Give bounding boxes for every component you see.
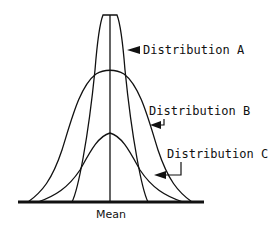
label-distribution-b: Distribution B: [149, 104, 250, 118]
pointer-c-icon: [154, 171, 166, 179]
label-distribution-a: Distribution A: [143, 43, 245, 57]
label-mean: Mean: [96, 208, 126, 221]
label-distribution-c: Distribution C: [167, 147, 268, 161]
pointer-c-leader: [166, 162, 181, 175]
pointer-a-icon: [127, 46, 140, 54]
distribution-diagram: Distribution A Distribution B Distributi…: [0, 0, 276, 232]
pointer-b-leader: [161, 119, 164, 125]
